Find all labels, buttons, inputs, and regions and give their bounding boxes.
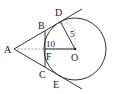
label-c: C xyxy=(39,69,46,80)
label-radius-5: 5 xyxy=(70,29,75,39)
center-dot-o xyxy=(74,48,77,51)
label-d: D xyxy=(55,7,62,18)
label-f: F xyxy=(46,51,52,62)
tangent-circle-diagram: A B C D E F O 5 10 xyxy=(0,0,114,94)
label-e: E xyxy=(53,79,59,90)
label-o: O xyxy=(71,52,78,63)
label-a: A xyxy=(4,44,12,55)
label-b: B xyxy=(38,20,45,31)
label-distance-10: 10 xyxy=(46,39,56,49)
